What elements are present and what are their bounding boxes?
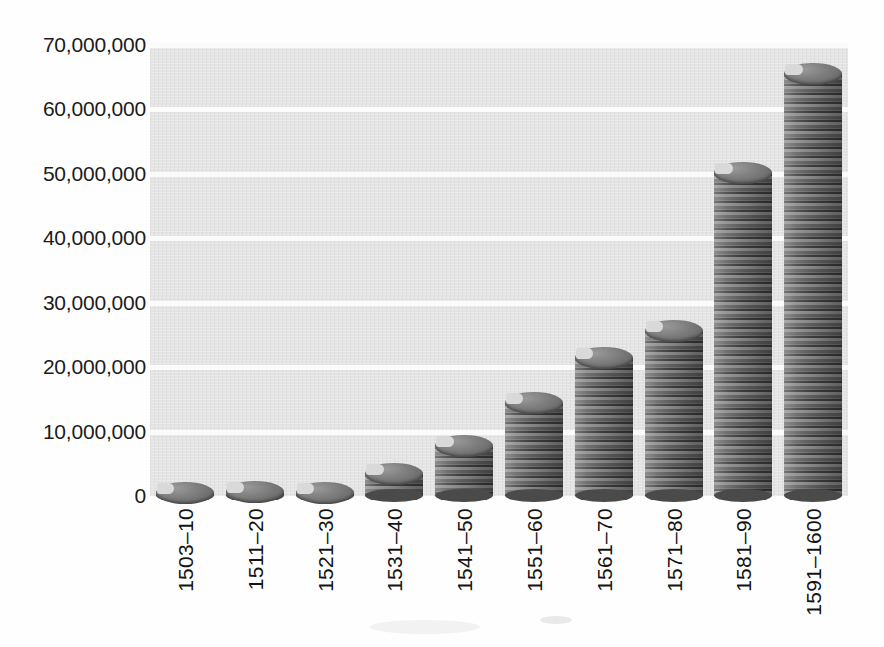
scan-artifact <box>540 616 572 624</box>
scan-artifact <box>370 620 480 634</box>
bar-top-notch <box>785 64 802 75</box>
bar <box>226 483 284 496</box>
bar-base-ellipse <box>645 489 703 502</box>
x-axis-tick-label: 1561–70 <box>593 508 617 592</box>
bar-coin-stack <box>784 74 842 496</box>
y-axis-tick-label: 40,000,000 <box>43 226 146 250</box>
bar-base-ellipse <box>714 489 772 502</box>
bar <box>784 65 842 496</box>
bar-coin-stack <box>575 358 633 496</box>
bar-series <box>150 45 848 496</box>
bar <box>156 484 214 496</box>
x-axis-tick-label: 1511–20 <box>244 508 268 590</box>
bar-base-ellipse <box>505 489 563 502</box>
x-axis-tick-label: 1521–30 <box>314 508 338 592</box>
x-axis-tick-label: 1531–40 <box>383 508 407 592</box>
bar <box>435 437 493 496</box>
bar <box>365 465 423 496</box>
bar <box>645 322 703 496</box>
bar-top-notch <box>436 436 453 447</box>
x-axis-tick-label: 1581–90 <box>732 508 756 592</box>
bar-top-notch <box>227 482 244 493</box>
y-axis-tick-label: 60,000,000 <box>43 97 146 121</box>
x-axis-tick-label: 1503–10 <box>174 508 198 592</box>
bar <box>714 164 772 496</box>
y-axis-tick-label: 30,000,000 <box>43 291 146 315</box>
bar-top-notch <box>646 321 663 332</box>
y-axis-tick-label: 70,000,000 <box>43 33 146 57</box>
x-axis-tick-label: 1591–1600 <box>802 508 826 616</box>
x-axis-tick-label: 1551–60 <box>523 508 547 592</box>
y-axis-tick-label: 10,000,000 <box>43 420 146 444</box>
bar-top-notch <box>506 393 523 404</box>
x-axis-tick-label: 1571–80 <box>663 508 687 592</box>
bar-coin-stack <box>645 331 703 496</box>
bar <box>505 394 563 496</box>
bar-coin-stack <box>505 403 563 496</box>
plot-area <box>150 45 848 496</box>
bar <box>296 485 354 496</box>
y-axis-tick-label: 50,000,000 <box>43 162 146 186</box>
bar-base-ellipse <box>784 489 842 502</box>
bar-coin-stack <box>714 173 772 496</box>
chart-figure: 70,000,00060,000,00050,000,00040,000,000… <box>0 0 884 647</box>
x-axis-tick-label: 1541–50 <box>453 508 477 592</box>
bar-top-notch <box>297 483 314 494</box>
bar-base-ellipse <box>365 489 423 502</box>
bar <box>575 349 633 496</box>
bar-base-ellipse <box>575 489 633 502</box>
bar-base-ellipse <box>435 489 493 502</box>
y-axis-tick-label: 0 <box>135 484 146 508</box>
bar-top-notch <box>576 348 593 359</box>
y-axis-tick-label: 20,000,000 <box>43 355 146 379</box>
bar-top-notch <box>366 464 383 475</box>
bar-top-notch <box>157 483 174 494</box>
bar-top-notch <box>715 163 732 174</box>
